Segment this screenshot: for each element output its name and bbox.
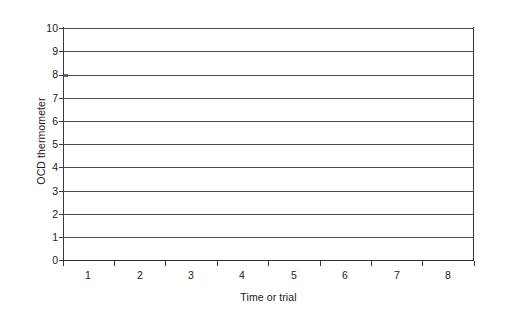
gridline-4 [63,167,474,168]
x-tick-label-2: 2 [125,268,155,282]
gridline-7 [63,98,474,99]
x-tickmark-2 [165,261,166,266]
x-tickmark-0 [63,261,64,266]
gridline-1 [63,237,474,238]
y-tick-label-3: 3 [38,184,58,198]
x-tick-label-1: 1 [73,268,103,282]
x-tickmark-4 [268,261,269,266]
x-tickmark-3 [217,261,218,266]
x-tickmark-1 [114,261,115,266]
gridline-10 [63,28,474,29]
gridline-8 [63,75,474,76]
y-tick-label-7: 7 [38,91,58,105]
y-tick-label-6: 6 [38,114,58,128]
gridline-6 [63,121,474,122]
chart-container: OCD thermometer 10 9 8 7 6 5 4 3 2 1 0 [0,0,505,323]
scan-artifact-speck [64,74,68,77]
x-tickmark-8 [474,261,475,266]
x-tickmark-5 [320,261,321,266]
x-axis-title: Time or trial [63,290,474,304]
y-axis-tick-labels: 10 9 8 7 6 5 4 3 2 1 0 [38,21,58,267]
y-tick-label-4: 4 [38,160,58,174]
x-tick-label-5: 5 [279,268,309,282]
x-tickmark-6 [371,261,372,266]
y-tick-label-1: 1 [38,230,58,244]
x-tick-label-3: 3 [176,268,206,282]
y-tick-label-5: 5 [38,137,58,151]
y-tick-label-2: 2 [38,207,58,221]
gridline-3 [63,191,474,192]
y-tick-label-0: 0 [38,253,58,267]
gridline-5 [63,144,474,145]
y-tick-label-9: 9 [38,44,58,58]
y-tick-label-10: 10 [38,21,58,35]
x-tick-label-8: 8 [433,268,463,282]
y-tick-label-8: 8 [38,67,58,81]
gridline-2 [63,214,474,215]
x-tick-label-6: 6 [330,268,360,282]
plot-area [63,28,474,260]
x-tick-label-7: 7 [382,268,412,282]
gridline-9 [63,51,474,52]
x-tick-label-4: 4 [227,268,257,282]
x-tickmark-7 [422,261,423,266]
